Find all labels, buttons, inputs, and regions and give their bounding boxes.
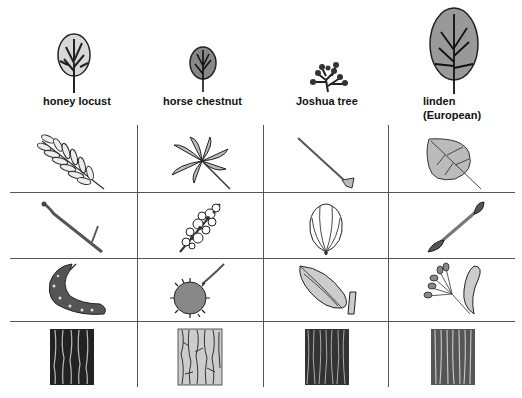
honey-locust-bark-icon <box>49 328 95 386</box>
honey-locust-leaf-icon <box>38 135 108 190</box>
column-divider-1 <box>137 125 138 387</box>
horse-chestnut-leaf-icon <box>168 135 234 191</box>
label-linden-line1: linden <box>423 94 481 108</box>
label-linden: linden (European) <box>423 94 481 122</box>
linden-tree-icon <box>429 6 479 94</box>
label-linden-line2: (European) <box>423 108 481 122</box>
column-divider-2 <box>263 125 264 387</box>
label-honey-locust: honey locust <box>43 94 111 108</box>
honey-locust-tree-icon <box>56 33 92 93</box>
linden-bark-icon <box>430 328 476 386</box>
horse-chestnut-bark-icon <box>177 328 223 386</box>
label-joshua-tree: Joshua tree <box>296 94 358 108</box>
linden-twig-icon <box>422 200 488 254</box>
linden-fruit-icon <box>422 262 486 318</box>
linden-leaf-icon <box>423 137 483 191</box>
horse-chestnut-fruit-icon <box>168 262 228 318</box>
joshua-tree-leaf-icon <box>296 136 358 190</box>
joshua-tree-capsule-icon <box>296 262 362 318</box>
horse-chestnut-flower-icon <box>172 200 228 256</box>
label-horse-chestnut: horse chestnut <box>163 94 242 108</box>
horse-chestnut-tree-icon <box>189 46 217 92</box>
column-divider-3 <box>388 125 389 387</box>
joshua-tree-flower-icon <box>304 200 348 256</box>
joshua-tree-bark-icon <box>304 328 350 386</box>
joshua-tree-icon <box>306 62 350 94</box>
honey-locust-twig-icon <box>40 200 106 254</box>
honey-locust-pod-icon <box>42 262 108 318</box>
